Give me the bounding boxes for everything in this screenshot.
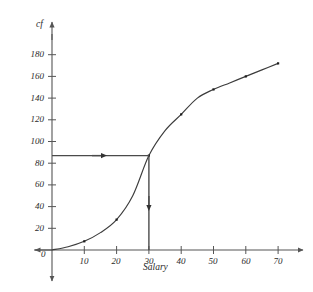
x-tick-label-20: 20 [106, 257, 126, 266]
x-tick-label-30: 30 [139, 257, 159, 266]
y-tick-label-180: 180 [20, 50, 44, 59]
data-point-marker [212, 88, 214, 90]
y-tick-label-120: 120 [20, 115, 44, 124]
y-tick-label-140: 140 [20, 94, 44, 103]
chart-canvas [0, 0, 313, 292]
x-tick-label-70: 70 [268, 257, 288, 266]
y-tick-label-160: 160 [20, 72, 44, 81]
axes-group [34, 22, 303, 281]
construction-lines [52, 156, 149, 250]
y-tick-label-80: 80 [22, 159, 44, 168]
data-point-markers [83, 62, 279, 242]
ogive-curve [52, 63, 278, 250]
y-tick-label-20: 20 [22, 224, 44, 233]
data-point-marker [277, 62, 279, 64]
x-tick-label-10: 10 [74, 257, 94, 266]
x-tick-label-60: 60 [236, 257, 256, 266]
data-point-marker [180, 113, 182, 115]
x-tick-label-40: 40 [171, 257, 191, 266]
y-tick-label-60: 60 [22, 180, 44, 189]
x-tick-label-50: 50 [203, 257, 223, 266]
data-point-marker [116, 219, 118, 221]
cumulative-frequency-chart: cf Salary 0 20 40 60 80 100 120 140 160 … [0, 0, 313, 292]
y-tick-label-40: 40 [22, 202, 44, 211]
data-point-marker [245, 75, 247, 77]
data-point-marker [83, 240, 85, 242]
y-axis-title: cf [36, 20, 43, 30]
origin-label: 0 [41, 250, 46, 259]
y-tick-label-100: 100 [20, 137, 44, 146]
